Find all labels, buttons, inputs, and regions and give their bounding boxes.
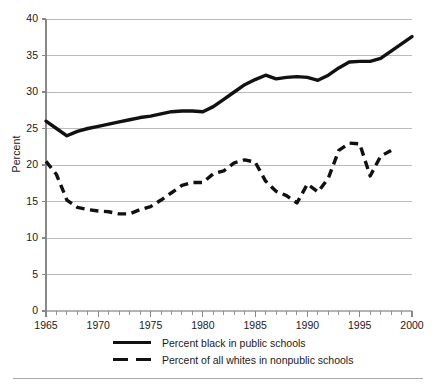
legend-item-series-2: Percent of all whites in nonpublic schoo… [0,351,436,368]
series-line-1 [46,37,412,136]
x-tick-label: 1990 [287,319,327,331]
y-tick-label: 0 [8,304,38,316]
x-tick-label: 1980 [183,319,223,331]
y-tick-label: 30 [8,85,38,97]
y-tick-label: 40 [8,12,38,24]
x-tick-label: 1995 [340,319,380,331]
y-tick-label: 10 [8,231,38,243]
y-tick-label: 35 [8,49,38,61]
y-tick-label: 25 [8,122,38,134]
line-chart-canvas [0,0,436,330]
legend-swatch-dashed-line-icon [113,354,151,365]
y-tick-label: 20 [8,158,38,170]
legend-label-series-1: Percent black in public schools [162,337,306,349]
x-tick-label: 1970 [78,319,118,331]
x-tick-label: 1985 [235,319,275,331]
y-tick-label: 15 [8,195,38,207]
x-minor-ticks-group [56,311,401,315]
footer-divider [13,378,423,379]
y-tick-label: 5 [8,268,38,280]
series-line-2 [46,143,391,214]
data-series-group [46,37,412,214]
legend-item-series-1: Percent black in public schools [0,334,436,351]
chart-plot-area: Percent 0510152025303540 196519701975198… [0,0,436,330]
chart-legend: Percent black in public schools Percent … [0,334,436,368]
x-tick-label: 1965 [26,319,66,331]
x-tick-label: 1975 [131,319,171,331]
x-major-ticks-group [46,311,412,317]
chart-figure: Percent 0510152025303540 196519701975198… [0,0,436,391]
x-tick-label: 2000 [392,319,432,331]
legend-swatch-solid-line-icon [113,337,151,348]
axes-group [42,19,46,311]
legend-label-series-2: Percent of all whites in nonpublic schoo… [162,354,353,366]
